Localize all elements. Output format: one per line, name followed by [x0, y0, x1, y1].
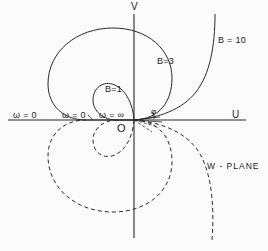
omega-zero-outer-label: ω = 0: [13, 111, 37, 120]
curve-b3-lower: [48, 120, 172, 212]
axis-label-u: U: [232, 110, 240, 120]
curve-label-b3: B=3: [157, 57, 174, 66]
curve-b10-upper: [134, 14, 215, 120]
axes-group: [8, 14, 246, 238]
omega-infinity-label: ω = ∞: [99, 111, 124, 120]
curve-label-b10: B = 10: [218, 36, 246, 45]
plane-label: W - PLANE: [207, 162, 259, 171]
omega-zero-mid-label: ω = 0: [62, 111, 86, 120]
w-plane-figure: V U O B=1 B=3 B = 10 ω = 0 ω = 0 ω = ∞ φ…: [0, 0, 268, 251]
curve-b10: [134, 14, 215, 240]
omega-markers: [88, 115, 93, 120]
origin-label: O: [117, 123, 126, 134]
phi-angle-label: φ: [151, 108, 157, 116]
curve-b10-lower: [134, 120, 213, 240]
curve-b1-lower: [93, 120, 134, 157]
curve-label-b1: B=1: [105, 85, 122, 94]
omega-zero-mid-leader: [88, 115, 93, 120]
axis-label-v: V: [131, 2, 138, 12]
